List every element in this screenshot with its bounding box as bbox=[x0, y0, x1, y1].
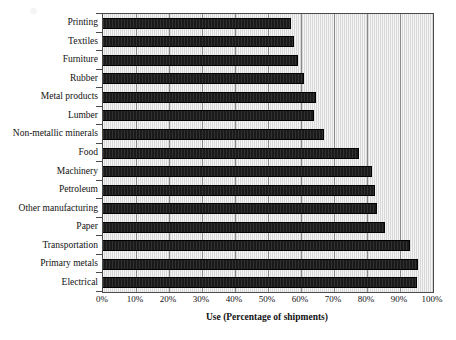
bar bbox=[103, 277, 417, 288]
x-axis-tick-label: 90% bbox=[391, 294, 408, 304]
x-axis-labels: 0%10%20%30%40%50%60%70%80%90%100% bbox=[102, 294, 432, 308]
x-axis-tick-label: 40% bbox=[226, 294, 243, 304]
x-axis-tick-label: 70% bbox=[325, 294, 342, 304]
y-axis-tick-label: Machinery bbox=[0, 166, 98, 176]
bar bbox=[103, 259, 418, 270]
bar bbox=[103, 203, 377, 214]
bar bbox=[103, 36, 294, 47]
bar bbox=[103, 129, 324, 140]
y-axis-tick-label: Metal products bbox=[0, 91, 98, 101]
x-axis-tick-label: 60% bbox=[292, 294, 309, 304]
y-axis-tick-label: Non-metallic minerals bbox=[0, 128, 98, 138]
y-axis-tick-label: Electrical bbox=[0, 277, 98, 287]
x-axis-tick-label: 10% bbox=[127, 294, 144, 304]
bar bbox=[103, 185, 375, 196]
x-axis-tick-label: 0% bbox=[96, 294, 108, 304]
y-axis-tick-label: Lumber bbox=[0, 110, 98, 120]
x-axis-tick-label: 100% bbox=[422, 294, 443, 304]
bars bbox=[103, 14, 433, 292]
y-axis-tick-label: Printing bbox=[0, 17, 98, 27]
bar bbox=[103, 55, 298, 66]
y-axis-tick-label: Other manufacturing bbox=[0, 203, 98, 213]
y-axis-tick-label: Food bbox=[0, 147, 98, 157]
y-axis-tick-label: Paper bbox=[0, 221, 98, 231]
bar bbox=[103, 92, 316, 103]
x-axis-tick-label: 20% bbox=[160, 294, 177, 304]
bar bbox=[103, 110, 314, 121]
bar-chart: PrintingTextilesFurnitureRubberMetal pro… bbox=[0, 0, 456, 340]
bar bbox=[103, 222, 385, 233]
bar bbox=[103, 240, 410, 251]
x-axis-title: Use (Percentage of shipments) bbox=[102, 312, 432, 322]
y-axis-tick-label: Petroleum bbox=[0, 184, 98, 194]
plot-area bbox=[102, 13, 434, 293]
y-axis-tick-label: Textiles bbox=[0, 36, 98, 46]
bar bbox=[103, 73, 304, 84]
x-axis-tick-label: 50% bbox=[259, 294, 276, 304]
y-axis-tick-label: Furniture bbox=[0, 54, 98, 64]
y-axis-tick-label: Rubber bbox=[0, 73, 98, 83]
gridline bbox=[433, 14, 434, 292]
bar bbox=[103, 148, 359, 159]
bar bbox=[103, 18, 291, 29]
y-axis-tick-label: Primary metals bbox=[0, 258, 98, 268]
y-axis-labels: PrintingTextilesFurnitureRubberMetal pro… bbox=[0, 13, 98, 291]
bar bbox=[103, 166, 372, 177]
x-axis-tick-label: 30% bbox=[193, 294, 210, 304]
x-axis-tick-label: 80% bbox=[358, 294, 375, 304]
y-axis-tick-label: Transportation bbox=[0, 240, 98, 250]
